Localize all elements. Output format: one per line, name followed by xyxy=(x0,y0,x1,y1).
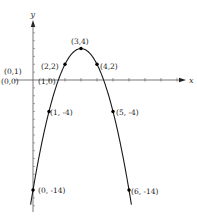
x-axis-label: x xyxy=(189,76,194,85)
point-label: (0,0) xyxy=(1,77,19,86)
point-label: (1, -4) xyxy=(50,108,73,117)
data-point xyxy=(111,110,114,113)
data-point xyxy=(63,63,66,66)
x-axis-arrow-icon xyxy=(179,78,186,82)
point-label: (5, -4) xyxy=(116,108,139,117)
point-label: (1,0) xyxy=(38,77,56,86)
point-labels: (0,0)(0,1)(1,0)(2,2)(3,4)(4,2)(1, -4)(5,… xyxy=(1,37,159,196)
point-label: (4,2) xyxy=(100,62,118,71)
point-label: (0, -14) xyxy=(38,186,66,195)
data-point xyxy=(31,188,34,191)
y-axis-label: y xyxy=(30,10,36,19)
y-axis-arrow-icon xyxy=(31,20,35,27)
point-label: (2,2) xyxy=(41,62,59,71)
point-label: (6, -14) xyxy=(131,187,159,196)
parabola-chart: xy (0,0)(0,1)(1,0)(2,2)(3,4)(4,2)(1, -4)… xyxy=(0,0,197,217)
axes: xy xyxy=(14,10,194,212)
data-point xyxy=(95,63,98,66)
data-point xyxy=(79,47,82,50)
point-label: (0,1) xyxy=(4,67,22,76)
parabola-curve xyxy=(31,49,132,205)
point-label: (3,4) xyxy=(71,37,89,46)
